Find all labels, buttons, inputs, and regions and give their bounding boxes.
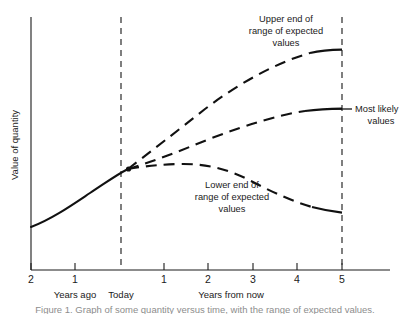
figure-container: 2 1 1 2 3 4 5 Years ago Today Years from…	[0, 0, 411, 314]
x-tick-label-4: 4	[294, 273, 300, 285]
x-tick-label-1: 1	[161, 273, 167, 285]
series-most-likely	[128, 109, 342, 169]
x-axis-captions-group: Years ago Today Years from now	[54, 289, 264, 300]
lower-end-annotation: Lower end of range of expected values	[195, 180, 269, 214]
lower-end-annotation-line-3: values	[219, 204, 246, 214]
figure-caption-text: Figure 1. Graph of some quantity versus …	[35, 304, 375, 314]
y-axis-label-group: Value of quantity	[9, 110, 20, 180]
x-tick-label-5: 5	[339, 273, 345, 285]
upper-end-annotation: Upper end of range of expected values	[249, 14, 323, 48]
lower-end-annotation-line-2: range of expected	[195, 192, 269, 202]
vertical-guides-group	[121, 17, 342, 270]
historical-curve-path	[31, 169, 128, 227]
upper-end-annotation-line-3: values	[273, 38, 300, 48]
upper-end-annotation-line-1: Upper end of	[259, 14, 313, 24]
most-likely-annotation: Most likely values	[333, 104, 399, 126]
lower-end-curve-tip	[312, 207, 342, 213]
x-tick-label-3: 3	[250, 273, 256, 285]
x-tick-label-2: 2	[205, 273, 211, 285]
x-axis-ticks-group	[31, 263, 342, 270]
forecast-range-chart: 2 1 1 2 3 4 5 Years ago Today Years from…	[0, 0, 411, 314]
most-likely-curve-path	[128, 111, 305, 169]
upper-end-annotation-line-2: range of expected	[249, 26, 323, 36]
x-axis-label-today: Today	[108, 289, 134, 300]
y-axis-label: Value of quantity	[9, 110, 20, 180]
x-axis-label-years-from-now: Years from now	[198, 289, 264, 300]
series-upper-end	[128, 50, 342, 169]
lower-end-annotation-line-1: Lower end of	[205, 180, 259, 190]
upper-end-curve-path	[128, 53, 310, 169]
x-axis-tick-labels-group: 2 1 1 2 3 4 5	[28, 273, 345, 285]
axes-group	[31, 17, 390, 270]
x-axis-label-years-ago: Years ago	[54, 289, 96, 300]
x-tick-label-minus2: 2	[28, 273, 34, 285]
figure-caption: Figure 1. Graph of some quantity versus …	[35, 304, 375, 314]
series-historical-values	[31, 169, 128, 227]
upper-end-curve-tip	[310, 50, 342, 53]
x-tick-label-minus1: 1	[72, 273, 78, 285]
most-likely-annotation-line-2: values	[368, 116, 395, 126]
most-likely-annotation-line-1: Most likely	[355, 104, 399, 114]
